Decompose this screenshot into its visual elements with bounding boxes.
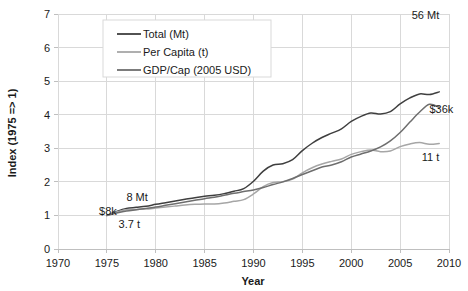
y-axis-tick-labels: 01234567 xyxy=(44,8,58,255)
y-tick-label: 7 xyxy=(44,8,50,20)
series-line-3 xyxy=(107,104,439,215)
data-series-group xyxy=(107,92,439,216)
y-axis-title: Index (1975 => 1) xyxy=(6,88,18,177)
total-start-label: 8 Mt xyxy=(126,191,147,203)
x-tick-label: 2000 xyxy=(339,257,363,269)
x-tick-label: 1970 xyxy=(46,257,70,269)
y-tick-label: 2 xyxy=(44,176,50,188)
x-axis-tick-labels: 197019751980198519901995200020052010 xyxy=(46,249,461,269)
line-chart: 01234567 1970197519801985199019952000200… xyxy=(0,0,468,291)
x-tick-label: 1980 xyxy=(144,257,168,269)
x-axis-title: Year xyxy=(241,275,265,287)
y-tick-label: 4 xyxy=(44,109,50,121)
x-tick-label: 1985 xyxy=(192,257,216,269)
total-end-label: 56 Mt xyxy=(412,9,440,21)
legend-label-3: GDP/Cap (2005 USD) xyxy=(143,64,251,76)
chart-canvas: 01234567 1970197519801985199019952000200… xyxy=(0,0,468,291)
y-tick-label: 5 xyxy=(44,75,50,87)
gdp-end-label: $36k xyxy=(429,103,453,115)
y-tick-label: 1 xyxy=(44,209,50,221)
legend-label-1: Total (Mt) xyxy=(143,28,189,40)
series-line-1 xyxy=(107,92,439,216)
x-tick-label: 1990 xyxy=(241,257,265,269)
y-tick-label: 3 xyxy=(44,142,50,154)
chart-legend: Total (Mt)Per Capita (t)GDP/Cap (2005 US… xyxy=(103,20,271,77)
x-tick-label: 2010 xyxy=(437,257,461,269)
x-tick-label: 1975 xyxy=(95,257,119,269)
legend-label-2: Per Capita (t) xyxy=(143,46,208,58)
percap-end-label: 11 t xyxy=(422,151,440,163)
percap-start-label: 3.7 t xyxy=(119,218,140,230)
x-tick-label: 1995 xyxy=(290,257,314,269)
y-tick-label: 0 xyxy=(44,243,50,255)
x-tick-label: 2005 xyxy=(388,257,412,269)
gdp-start-label: $8k xyxy=(99,205,117,217)
y-tick-label: 6 xyxy=(44,42,50,54)
